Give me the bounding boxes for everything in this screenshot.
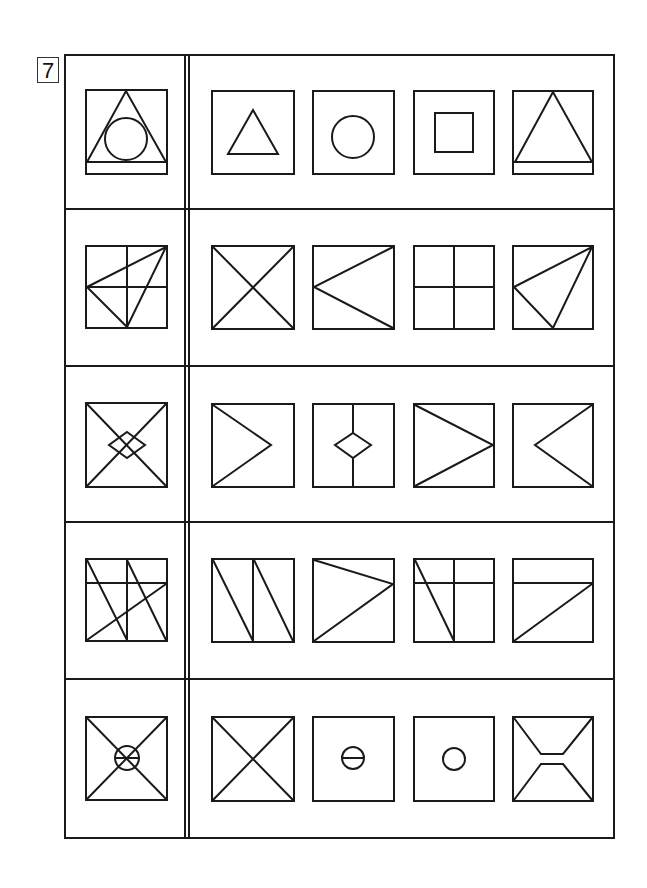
option-4-large-triangle[interactable] xyxy=(513,91,593,174)
option-1-diagonal-x[interactable] xyxy=(212,717,294,801)
option-2-vertical-diamond[interactable] xyxy=(313,404,394,487)
option-2-circle[interactable] xyxy=(313,91,394,174)
option-2-circle-with-bar[interactable] xyxy=(313,717,394,801)
option-3-right-triangle-to-edge[interactable] xyxy=(414,404,494,487)
option-3-grid-with-slash[interactable] xyxy=(414,559,494,642)
row-5 xyxy=(86,717,593,801)
option-4-left-chevron[interactable] xyxy=(513,404,593,487)
row-4 xyxy=(86,559,593,642)
row-2 xyxy=(86,246,593,329)
option-3-inner-square[interactable] xyxy=(414,91,494,174)
option-4-hourglass[interactable] xyxy=(513,717,593,801)
row-3 xyxy=(86,403,593,487)
question-figure-row-3 xyxy=(86,403,167,487)
option-4-triangle[interactable] xyxy=(513,246,593,329)
option-1-small-triangle[interactable] xyxy=(212,91,294,174)
option-2-left-chevron[interactable] xyxy=(313,246,394,329)
outer-frame xyxy=(65,55,614,838)
option-3-quadrant-cross[interactable] xyxy=(414,246,494,329)
option-1-right-chevron[interactable] xyxy=(212,404,294,487)
row-1 xyxy=(86,90,593,174)
figure-grid xyxy=(0,0,647,888)
option-1-diagonal-x[interactable] xyxy=(212,246,294,329)
option-2-triangle-right-upper[interactable] xyxy=(313,559,394,642)
question-figure-row-4 xyxy=(86,559,167,641)
question-figure-row-1 xyxy=(86,90,167,174)
question-figure-row-2 xyxy=(86,246,167,328)
question-figure-row-5 xyxy=(86,717,167,800)
option-1-parallel-slashes[interactable] xyxy=(212,559,294,642)
option-4-top-line-rising-diagonal[interactable] xyxy=(513,559,593,642)
option-3-small-circle[interactable] xyxy=(414,717,494,801)
